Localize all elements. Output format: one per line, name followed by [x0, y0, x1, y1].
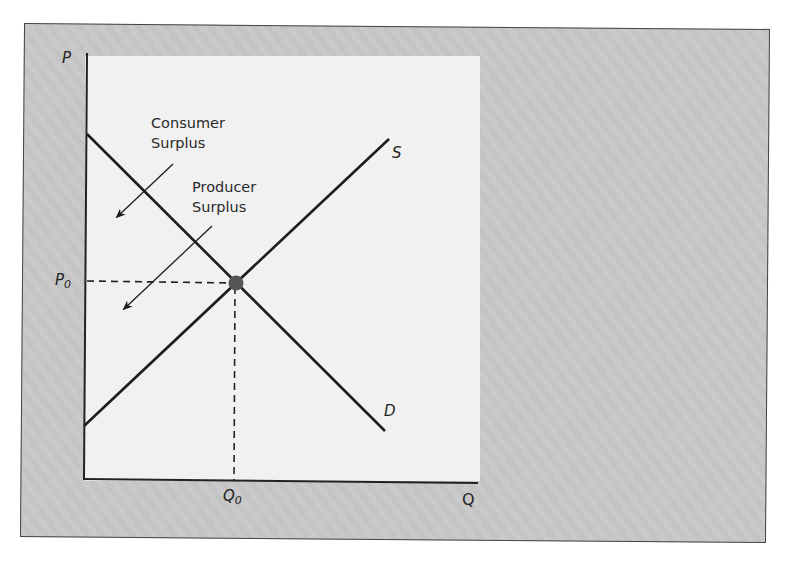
consumer-surplus-label: Consumer Surplus — [151, 113, 225, 153]
equilibrium-price-label: P0 — [55, 273, 71, 290]
x-axis — [83, 479, 478, 483]
y-axis-label: P — [62, 51, 71, 66]
supply-curve-label: S — [392, 146, 402, 161]
supply-demand-chart — [0, 0, 787, 573]
y-axis — [84, 53, 87, 479]
equilibrium-point — [229, 276, 244, 291]
equilibrium-quantity-label: Q0 — [223, 489, 242, 506]
x-axis-label: Q — [462, 492, 475, 508]
price-guide-dashed — [87, 281, 232, 283]
producer-surplus-label: Producer Surplus — [192, 177, 256, 217]
producer-surplus-arrow — [124, 226, 212, 309]
quantity-guide-dashed — [234, 287, 235, 480]
demand-curve-label: D — [384, 404, 396, 419]
